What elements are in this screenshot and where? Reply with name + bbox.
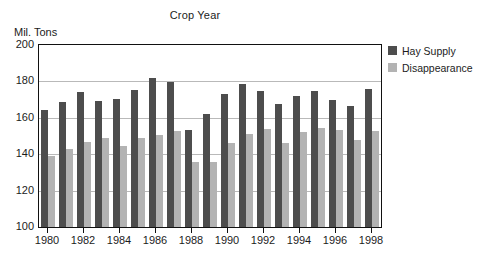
y-tick-label: 160: [0, 111, 34, 123]
bar-disappearance: [102, 138, 109, 227]
bar-disappearance: [336, 130, 343, 227]
bar-hay-supply: [293, 96, 300, 227]
bar-disappearance: [228, 143, 235, 227]
bar-disappearance: [120, 146, 127, 227]
bar-disappearance: [192, 162, 199, 227]
bar-group: [113, 45, 131, 227]
bar-disappearance: [318, 128, 325, 227]
legend-label: Hay Supply: [402, 45, 456, 57]
x-tick-label: 1980: [35, 234, 59, 246]
x-tick-label: 1990: [215, 234, 239, 246]
x-tick: [191, 228, 192, 233]
chart-legend: Hay SupplyDisappearance: [388, 44, 488, 78]
bar-disappearance: [354, 140, 361, 227]
bar-hay-supply: [113, 99, 120, 227]
bar-hay-supply: [257, 91, 264, 227]
bar-disappearance: [300, 132, 307, 227]
bar-hay-supply: [365, 89, 372, 227]
bar-hay-supply: [239, 84, 246, 227]
bar-group: [77, 45, 95, 227]
bar-group: [95, 45, 113, 227]
bar-hay-supply: [41, 110, 48, 227]
x-tick-label: 1986: [143, 234, 167, 246]
bar-hay-supply: [329, 100, 336, 227]
bar-series-container: [39, 45, 381, 227]
bar-group: [347, 45, 365, 227]
y-axis-label: Mil. Tons: [14, 26, 57, 38]
y-tick-label: 120: [0, 184, 34, 196]
y-tick-label: 180: [0, 74, 34, 86]
bar-hay-supply: [131, 90, 138, 227]
legend-item: Disappearance: [388, 61, 488, 74]
bar-hay-supply: [311, 91, 318, 227]
bar-group: [311, 45, 329, 227]
x-tick-label: 1988: [179, 234, 203, 246]
x-tick: [227, 228, 228, 233]
bar-hay-supply: [275, 104, 282, 227]
bar-hay-supply: [59, 102, 66, 227]
x-tick-label: 1996: [323, 234, 347, 246]
bar-hay-supply: [203, 114, 210, 227]
y-tick-label: 140: [0, 147, 34, 159]
bar-hay-supply: [77, 92, 84, 227]
bar-hay-supply: [221, 94, 228, 227]
x-tick: [263, 228, 264, 233]
bar-group: [203, 45, 221, 227]
bar-hay-supply: [149, 78, 156, 227]
x-tick: [299, 228, 300, 233]
bar-group: [239, 45, 257, 227]
chart-figure: Crop Year Mil. Tons 100120140160180200 1…: [0, 0, 492, 258]
bar-group: [221, 45, 239, 227]
bar-group: [275, 45, 293, 227]
bar-disappearance: [66, 149, 73, 227]
x-tick: [47, 228, 48, 233]
bar-disappearance: [210, 162, 217, 227]
bar-disappearance: [372, 131, 379, 227]
bar-hay-supply: [167, 82, 174, 227]
x-tick-label: 1998: [359, 234, 383, 246]
bar-disappearance: [48, 156, 55, 227]
bar-group: [293, 45, 311, 227]
bar-hay-supply: [95, 101, 102, 227]
x-tick-label: 1992: [251, 234, 275, 246]
bar-group: [185, 45, 203, 227]
bar-hay-supply: [347, 106, 354, 227]
bar-disappearance: [174, 131, 181, 227]
bar-group: [41, 45, 59, 227]
bar-disappearance: [282, 143, 289, 227]
y-axis-tick-labels: 100120140160180200: [0, 44, 34, 228]
bar-disappearance: [156, 135, 163, 227]
legend-swatch-icon: [388, 63, 397, 72]
bar-group: [365, 45, 383, 227]
chart-title: Crop Year: [0, 9, 390, 21]
x-tick: [155, 228, 156, 233]
x-tick: [371, 228, 372, 233]
bar-hay-supply: [185, 130, 192, 227]
x-axis-tick-labels: 1980198219841986198819901992199419961998: [0, 234, 492, 252]
bar-group: [167, 45, 185, 227]
bar-disappearance: [246, 134, 253, 227]
y-tick-label: 200: [0, 38, 34, 50]
x-tick-label: 1984: [107, 234, 131, 246]
legend-label: Disappearance: [402, 62, 473, 74]
bar-group: [257, 45, 275, 227]
x-tick: [335, 228, 336, 233]
x-tick-label: 1982: [71, 234, 95, 246]
y-tick-label: 100: [0, 220, 34, 232]
bar-group: [329, 45, 347, 227]
legend-item: Hay Supply: [388, 44, 488, 57]
bar-disappearance: [138, 138, 145, 227]
bar-group: [149, 45, 167, 227]
bar-group: [59, 45, 77, 227]
bar-disappearance: [84, 142, 91, 227]
bar-group: [131, 45, 149, 227]
x-tick: [119, 228, 120, 233]
x-tick: [83, 228, 84, 233]
bar-disappearance: [264, 129, 271, 227]
x-tick-label: 1994: [287, 234, 311, 246]
legend-swatch-icon: [388, 46, 397, 55]
